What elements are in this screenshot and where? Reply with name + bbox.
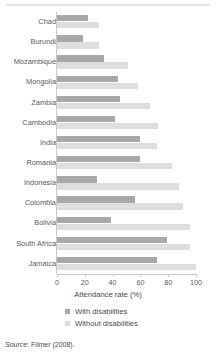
bar-row: Burundi	[0, 32, 216, 52]
bar-with-disabilities	[57, 55, 104, 61]
bar-without-disabilities	[57, 203, 183, 209]
source-note: Source: Filmer (2008).	[5, 341, 75, 348]
category-label: Burundi	[31, 32, 56, 52]
legend-swatch-icon	[65, 309, 70, 314]
category-label: Romania	[26, 153, 56, 173]
bar-row: Jamaica	[0, 254, 216, 274]
bar-group	[57, 193, 196, 213]
x-tick	[57, 274, 58, 277]
source-prefix: Source:	[5, 341, 29, 348]
bar-group	[57, 32, 196, 52]
x-tick-label: 20	[81, 278, 89, 287]
bar-with-disabilities	[57, 217, 111, 223]
x-tick	[85, 274, 86, 277]
x-tick	[196, 274, 197, 277]
figure-container: ChadBurundiMozambiqueMongoliaZambiaCambo…	[0, 0, 216, 358]
bar-with-disabilities	[57, 35, 83, 41]
bar-with-disabilities	[57, 257, 157, 263]
bar-group	[57, 52, 196, 72]
legend-label: With disabilities	[75, 307, 127, 316]
bar-with-disabilities	[57, 196, 135, 202]
bar-with-disabilities	[57, 76, 118, 82]
bar-with-disabilities	[57, 176, 97, 182]
category-label: Colombia	[25, 193, 56, 213]
bar-row: Romania	[0, 153, 216, 173]
bar-row: Mozambique	[0, 52, 216, 72]
category-label: Chad	[38, 12, 56, 32]
bar-without-disabilities	[57, 42, 99, 48]
bar-with-disabilities	[57, 136, 140, 142]
bar-row: Cambodia	[0, 113, 216, 133]
bar-group	[57, 173, 196, 193]
category-label: Cambodia	[22, 113, 56, 133]
bar-with-disabilities	[57, 116, 115, 122]
x-tick	[113, 274, 114, 277]
bar-row: Chad	[0, 12, 216, 32]
x-tick	[168, 274, 169, 277]
bar-row: Zambia	[0, 93, 216, 113]
x-tick-label: 40	[109, 278, 117, 287]
bar-rows: ChadBurundiMozambiqueMongoliaZambiaCambo…	[0, 12, 216, 274]
x-tick-label: 60	[136, 278, 144, 287]
bar-without-disabilities	[57, 123, 158, 129]
bar-group	[57, 213, 196, 233]
bar-without-disabilities	[57, 163, 172, 169]
bar-without-disabilities	[57, 22, 99, 28]
category-label: Zambia	[31, 93, 56, 113]
bar-group	[57, 113, 196, 133]
category-label: Jamaica	[28, 254, 56, 274]
bar-row: South Africa	[0, 234, 216, 254]
bar-row: Colombia	[0, 193, 216, 213]
bar-without-disabilities	[57, 103, 150, 109]
bar-without-disabilities	[57, 224, 190, 230]
category-label: Mozambique	[14, 52, 56, 72]
category-label: South Africa	[16, 234, 56, 254]
source-text: Filmer (2008).	[31, 341, 75, 348]
bar-with-disabilities	[57, 15, 88, 21]
bar-with-disabilities	[57, 156, 140, 162]
bar-with-disabilities	[57, 96, 120, 102]
x-axis-line	[57, 274, 196, 275]
x-tick-label: 100	[190, 278, 202, 287]
bar-without-disabilities	[57, 264, 196, 270]
bar-group	[57, 93, 196, 113]
bar-group	[57, 153, 196, 173]
x-tick	[140, 274, 141, 277]
category-label: Indonesia	[24, 173, 56, 193]
bar-without-disabilities	[57, 83, 138, 89]
x-tick-label: 0	[55, 278, 59, 287]
category-label: Mongolia	[26, 72, 56, 92]
chart-legend: With disabilities Without disabilities	[0, 305, 216, 329]
top-divider	[6, 4, 210, 6]
legend-label: Without disabilities	[75, 319, 138, 328]
bar-with-disabilities	[57, 237, 167, 243]
legend-item-without-disabilities: Without disabilities	[65, 317, 216, 329]
bar-without-disabilities	[57, 143, 157, 149]
bar-without-disabilities	[57, 183, 179, 189]
bar-group	[57, 72, 196, 92]
x-tick-label: 80	[164, 278, 172, 287]
bar-group	[57, 234, 196, 254]
bar-group	[57, 133, 196, 153]
category-label: Bolivia	[34, 213, 56, 233]
legend-item-with-disabilities: With disabilities	[65, 305, 216, 317]
bar-row: Bolivia	[0, 213, 216, 233]
bar-row: Mongolia	[0, 72, 216, 92]
bar-without-disabilities	[57, 244, 190, 250]
category-label: India	[40, 133, 56, 153]
bar-without-disabilities	[57, 62, 128, 68]
bar-group	[57, 254, 196, 274]
plot-area: ChadBurundiMozambiqueMongoliaZambiaCambo…	[0, 12, 216, 274]
bar-group	[57, 12, 196, 32]
legend-swatch-icon	[65, 321, 70, 326]
bar-row: Indonesia	[0, 173, 216, 193]
bar-row: India	[0, 133, 216, 153]
x-axis-title: Attendance rate (%)	[0, 290, 216, 299]
